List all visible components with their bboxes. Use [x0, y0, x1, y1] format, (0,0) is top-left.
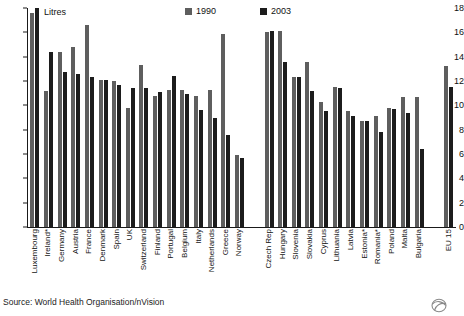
- group-spacer: [246, 8, 262, 227]
- bar-1990: [194, 96, 198, 227]
- x-axis-label: Poland: [388, 229, 396, 254]
- bar-group: [205, 8, 219, 227]
- bar-group: [178, 8, 192, 227]
- bar-group: [317, 8, 331, 227]
- y-axis-tick-mark: [23, 32, 27, 33]
- x-axis-label-cell: Cyprus: [317, 229, 331, 289]
- bar-1990: [208, 90, 212, 227]
- bar-group: [123, 8, 137, 227]
- x-axis-label: Slovenia: [292, 229, 300, 260]
- x-axis-label: Romania*: [374, 229, 382, 264]
- bar-group: [110, 8, 124, 227]
- bar-2003: [213, 118, 217, 228]
- x-axis-label-cell: Latvia: [344, 229, 358, 289]
- label-spacer: [426, 229, 442, 289]
- x-axis-label: UK: [126, 229, 134, 240]
- x-axis-label-cell: Spain: [110, 229, 124, 289]
- bar-1990: [44, 91, 48, 227]
- globe-swirl-logo-icon: [430, 297, 448, 313]
- bar-2003: [420, 149, 424, 227]
- x-axis-label: Switzerland: [140, 229, 148, 270]
- bar-group: [69, 8, 83, 227]
- bar-2003: [338, 88, 342, 227]
- bar-1990: [333, 87, 337, 227]
- bar-group: [219, 8, 233, 227]
- bar-1990: [374, 116, 378, 227]
- bar-group: [412, 8, 426, 227]
- x-axis-label-cell: Estonia*: [358, 229, 372, 289]
- x-axis-label: Slovakia: [306, 229, 314, 259]
- bar-group: [385, 8, 399, 227]
- x-axis-line: [27, 227, 456, 228]
- x-axis-label-cell: France: [83, 229, 97, 289]
- bar-1990: [401, 97, 405, 227]
- x-axis-label: Finland: [154, 229, 162, 255]
- x-axis-label: Estonia*: [361, 229, 369, 259]
- bar-2003: [270, 31, 274, 227]
- bar-1990: [58, 52, 62, 227]
- x-axis-label: Spain: [113, 229, 121, 249]
- x-axis-label: Portugal: [167, 229, 175, 259]
- bar-group: [262, 8, 276, 227]
- bar-group: [276, 8, 290, 227]
- bar-2003: [240, 158, 244, 227]
- bar-1990: [99, 80, 103, 227]
- y-axis-tick-mark: [23, 8, 27, 9]
- bar-1990: [71, 47, 75, 227]
- x-axis-label: EU 15: [445, 229, 453, 251]
- bar-group: [151, 8, 165, 227]
- bar-group: [96, 8, 110, 227]
- bar-1990: [444, 66, 448, 227]
- bar-2003: [104, 80, 108, 227]
- source-note: Source: World Health Organisation/nVisio…: [3, 297, 164, 307]
- bar-2003: [117, 85, 121, 227]
- bar-2003: [90, 77, 94, 227]
- bar-2003: [449, 87, 453, 227]
- x-axis-label: Norway: [235, 229, 243, 256]
- x-axis-label: Lithuania: [333, 229, 341, 261]
- bar-group: [399, 8, 413, 227]
- bar-group: [303, 8, 317, 227]
- bar-2003: [310, 91, 314, 227]
- bar-group: [371, 8, 385, 227]
- x-axis-label: Netherlands: [208, 229, 216, 272]
- x-axis-label: Austria: [72, 229, 80, 254]
- x-axis-label: France: [85, 229, 93, 254]
- x-axis-labels: LuxembourgIreland*GermanyAustriaFranceDe…: [28, 229, 456, 289]
- x-axis-label-cell: Netherlands: [205, 229, 219, 289]
- y-axis-tick-mark: [23, 129, 27, 130]
- x-axis-label-cell: Bulgaria: [412, 229, 426, 289]
- bar-group: [55, 8, 69, 227]
- bar-1990: [265, 32, 269, 227]
- bar-2003: [172, 76, 176, 227]
- x-axis-label-cell: Austria: [69, 229, 83, 289]
- bar-1990: [305, 62, 309, 227]
- bar-1990: [126, 108, 130, 227]
- bar-2003: [351, 116, 355, 227]
- bar-1990: [167, 90, 171, 227]
- y-axis-tick-mark: [23, 227, 27, 228]
- x-axis-label-cell: Slovenia: [290, 229, 304, 289]
- x-axis-label-cell: UK: [123, 229, 137, 289]
- bar-1990: [221, 34, 225, 227]
- bar-group: [42, 8, 56, 227]
- bar-group: [442, 8, 456, 227]
- bar-group: [83, 8, 97, 227]
- x-axis-label-cell: Ireland*: [42, 229, 56, 289]
- bar-group: [233, 8, 247, 227]
- bar-2003: [144, 88, 148, 227]
- bar-1990: [180, 90, 184, 227]
- y-axis-tick-mark: [23, 105, 27, 106]
- x-axis-label-cell: Denmark: [96, 229, 110, 289]
- bar-1990: [415, 97, 419, 227]
- y-axis-tick-mark: [23, 56, 27, 57]
- x-axis-label-cell: Slovakia: [303, 229, 317, 289]
- x-axis-label: Malta: [401, 229, 409, 249]
- bar-1990: [319, 102, 323, 227]
- x-axis-label: Czech Rep: [265, 229, 273, 269]
- x-axis-label-cell: Hungary: [276, 229, 290, 289]
- x-axis-label-cell: Switzerland: [137, 229, 151, 289]
- bar-2003: [199, 110, 203, 227]
- bar-group: [164, 8, 178, 227]
- x-axis-label-cell: Poland: [385, 229, 399, 289]
